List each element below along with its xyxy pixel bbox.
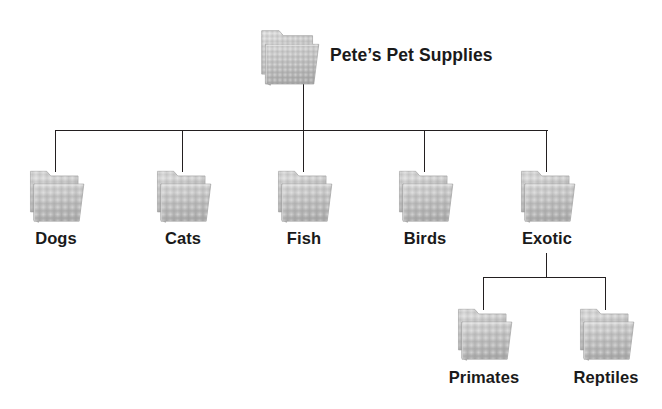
node-label-dogs: Dogs [35, 229, 77, 248]
folder-icon [154, 163, 212, 226]
node-exotic[interactable]: Exotic [517, 163, 577, 248]
node-label-reptiles: Reptiles [574, 368, 639, 387]
node-primates[interactable]: Primates [454, 301, 514, 387]
node-cats[interactable]: Cats [153, 163, 213, 248]
folder-icon [275, 163, 333, 226]
folder-icon [455, 301, 513, 364]
node-label-birds: Birds [404, 229, 447, 248]
folder-icon [27, 163, 85, 226]
node-label-petes-pet-supplies: Pete’s Pet Supplies [330, 45, 493, 66]
node-reptiles[interactable]: Reptiles [576, 301, 636, 387]
folder-icon [396, 163, 454, 226]
node-birds[interactable]: Birds [395, 163, 455, 248]
node-label-exotic: Exotic [522, 229, 572, 248]
node-label-primates: Primates [449, 368, 520, 387]
folder-icon [577, 301, 635, 364]
folder-icon [518, 163, 576, 226]
node-label-cats: Cats [165, 229, 201, 248]
folder-icon [258, 22, 320, 89]
node-dogs[interactable]: Dogs [26, 163, 86, 248]
folder-hierarchy-diagram: Pete’s Pet Supplies Dogs Cats Fish Birds… [0, 0, 662, 409]
node-fish[interactable]: Fish [274, 163, 334, 248]
node-petes-pet-supplies[interactable]: Pete’s Pet Supplies [258, 22, 493, 89]
node-label-fish: Fish [287, 229, 321, 248]
